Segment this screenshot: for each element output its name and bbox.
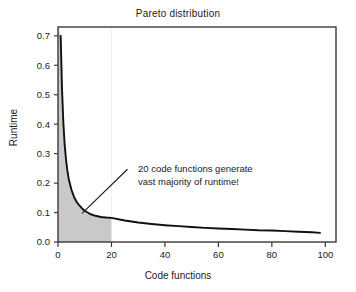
y-axis-ticks: 0.00.10.20.30.40.50.60.7 [37,30,58,247]
annotation-text-line1: 20 code functions generate [138,163,253,174]
y-tick-label: 0.3 [37,148,50,159]
chart-figure: Pareto distribution 0.00.10.20.30.40.50.… [0,0,356,292]
x-axis-ticks: 020406080100 [55,242,333,260]
x-tick-label: 80 [267,249,278,260]
x-tick-label: 100 [317,249,333,260]
y-tick-label: 0.2 [37,177,50,188]
x-tick-label: 60 [213,249,224,260]
x-tick-label: 0 [55,249,60,260]
y-tick-label: 0.1 [37,207,50,218]
x-tick-label: 20 [106,249,117,260]
pareto-distribution-plot: 0.00.10.20.30.40.50.60.7 020406080100 20… [0,0,356,292]
y-axis-title: Runtime [8,93,19,163]
x-axis-title: Code functions [0,270,356,281]
y-tick-label: 0.6 [37,60,50,71]
y-tick-label: 0.0 [37,236,50,247]
annotation-text-line2: vast majority of runtime! [138,176,239,187]
y-tick-label: 0.7 [37,30,50,41]
y-tick-label: 0.4 [37,119,50,130]
x-tick-label: 40 [160,249,171,260]
y-tick-label: 0.5 [37,89,50,100]
